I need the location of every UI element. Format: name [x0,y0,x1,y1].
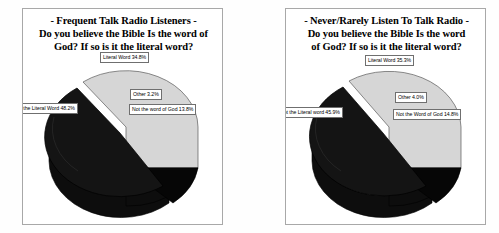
chart-panel-frequent-listeners: - Frequent Talk Radio Listeners - Do you… [22,8,223,225]
data-label-other-right: Other 4.0% [395,92,427,103]
pie-chart-left [23,55,222,224]
chart-title-right-line1: - Never/Rarely Listen To Talk Radio - [290,14,483,27]
data-label-not-word-of-god-left: Not the word of God 13.8% [129,104,196,115]
chart-title-right-line3: of God? If so is it the literal word? [290,40,483,53]
figure-canvas: - Frequent Talk Radio Listeners - Do you… [0,0,499,233]
pie-svg-right [286,55,485,224]
chart-panel-never-rarely-listeners: - Never/Rarely Listen To Talk Radio - Do… [285,8,486,225]
chart-title-left-line2: Do you believe the Bible Is the word of [27,27,220,40]
chart-title-right: - Never/Rarely Listen To Talk Radio - Do… [290,14,483,53]
chart-title-left-line1: - Frequent Talk Radio Listeners - [27,14,220,27]
chart-title-right-line2: Do you believe the Bible Is the word [290,27,483,40]
chart-title-left: - Frequent Talk Radio Listeners - Do you… [27,14,220,53]
pie-chart-right [286,55,485,224]
data-label-literal-word-left: Literal Word 34.8% [100,52,149,63]
data-label-other-left: Other 3.2% [130,89,162,100]
data-label-literal-word-right: Literal Word 35.3% [365,55,414,66]
data-label-not-word-of-god-right: Not the Word of God 14.8% [393,109,461,120]
pie-svg-left [23,55,222,224]
data-label-not-literal-word-right: Not the Literal word 45.9% [285,107,343,118]
data-label-not-literal-word-left: Not the Literal Word 48.2% [22,103,78,114]
